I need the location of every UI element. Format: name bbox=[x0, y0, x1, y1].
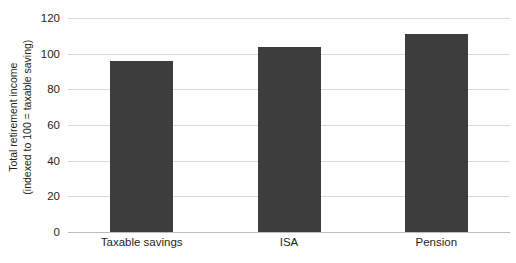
bar bbox=[258, 47, 321, 232]
y-tick-label: 100 bbox=[20, 48, 60, 60]
y-tick-label: 60 bbox=[20, 119, 60, 131]
y-tick-label: 80 bbox=[20, 83, 60, 95]
bar bbox=[110, 61, 173, 232]
y-tick-label: 40 bbox=[20, 155, 60, 167]
x-tick-label: Pension bbox=[416, 236, 458, 248]
x-tick-label: Taxable savings bbox=[101, 236, 183, 248]
bar-chart: Total retirement income (indexed to 100 … bbox=[0, 0, 516, 263]
bar bbox=[405, 34, 468, 232]
y-axis-ticks: 020406080100120 bbox=[0, 18, 68, 232]
bar-series bbox=[68, 18, 510, 232]
x-axis-ticks: Taxable savingsISAPension bbox=[68, 236, 510, 260]
x-tick-label: ISA bbox=[280, 236, 299, 248]
y-tick-label: 0 bbox=[20, 226, 60, 238]
y-tick-label: 20 bbox=[20, 190, 60, 202]
y-tick-label: 120 bbox=[20, 12, 60, 24]
gridline bbox=[68, 232, 510, 233]
